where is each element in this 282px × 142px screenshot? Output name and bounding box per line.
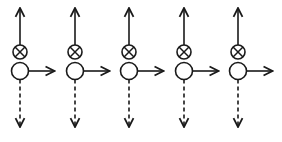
otimes-node-icon xyxy=(122,45,136,59)
units-group xyxy=(12,8,273,127)
diagram-unit-3 xyxy=(121,8,164,127)
otimes-node-icon xyxy=(68,45,82,59)
otimes-node-icon xyxy=(177,45,191,59)
open-circle-node-icon xyxy=(121,63,138,80)
open-circle-node-icon xyxy=(67,63,84,80)
otimes-node-icon xyxy=(13,45,27,59)
recurrent-unit-diagram xyxy=(0,0,282,142)
open-circle-node-icon xyxy=(230,63,247,80)
open-circle-node-icon xyxy=(176,63,193,80)
diagram-unit-4 xyxy=(176,8,219,127)
diagram-unit-1 xyxy=(12,8,55,127)
diagram-unit-2 xyxy=(67,8,110,127)
otimes-node-icon xyxy=(231,45,245,59)
open-circle-node-icon xyxy=(12,63,29,80)
diagram-unit-5 xyxy=(230,8,273,127)
